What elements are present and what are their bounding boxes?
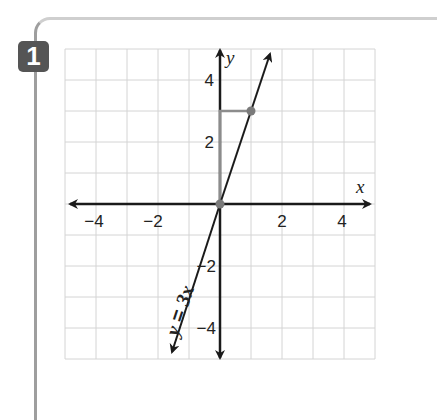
y-tick-label: 4 (205, 71, 214, 90)
equation-label: y = 3x (160, 282, 199, 340)
x-tick-label: −2 (143, 212, 162, 231)
x-tick-label: 2 (277, 212, 286, 231)
y-tick-label: −4 (197, 319, 216, 338)
y-tick-label: 2 (205, 133, 214, 152)
point-origin (216, 200, 225, 209)
y-tick-label: −2 (197, 257, 216, 276)
x-axis-label: x (355, 176, 365, 197)
line-y-equals-3x (220, 54, 270, 204)
x-tick-label: 4 (337, 212, 346, 231)
x-tick-label: −4 (84, 212, 103, 231)
y-axis-label: y (224, 47, 235, 68)
point-1-3 (247, 107, 256, 116)
